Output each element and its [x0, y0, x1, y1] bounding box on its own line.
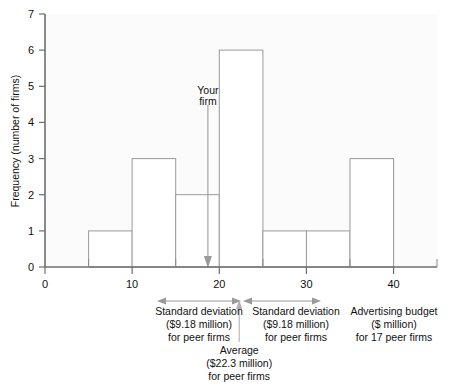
y-axis: 0 1 2 3 4 5 6 7 Frequency (number of fir… — [9, 8, 45, 273]
y-tick-label-2: 2 — [28, 189, 34, 201]
x-caption-line1: Advertising budget — [351, 305, 438, 317]
table-row — [263, 231, 307, 267]
y-tick-label-0: 0 — [28, 261, 34, 273]
table-row — [89, 231, 133, 267]
histogram-svg: 0 1 2 3 4 5 6 7 Frequency (number of fir… — [0, 0, 453, 386]
std-dev-right-line3: for peer firms — [265, 331, 327, 343]
annotation-average: Average ($22.3 million) for peer firms — [206, 344, 272, 382]
table-row — [176, 195, 220, 267]
arrow-left-icon — [157, 298, 166, 305]
std-dev-right-line1: Standard deviation — [252, 305, 340, 317]
table-row — [132, 159, 176, 267]
y-axis-title: Frequency (number of firms) — [9, 75, 21, 207]
x-tick-label-40: 40 — [387, 278, 399, 290]
x-tick-label-0: 0 — [42, 278, 48, 290]
y-tick-label-7: 7 — [28, 8, 34, 20]
x-tick-label-20: 20 — [213, 278, 225, 290]
y-tick-label-1: 1 — [28, 225, 34, 237]
arrow-right-icon — [312, 298, 321, 305]
average-line3: for peer firms — [208, 370, 270, 382]
y-tick-label-5: 5 — [28, 80, 34, 92]
std-dev-left-line3: for peer firms — [168, 331, 230, 343]
arrow-left-icon — [243, 298, 252, 305]
average-line2: ($22.3 million) — [206, 357, 272, 369]
y-tick-label-4: 4 — [28, 116, 34, 128]
std-dev-span-right — [243, 298, 321, 305]
std-dev-left-line1: Standard deviation — [155, 305, 243, 317]
x-caption-line2: ($ million) — [371, 318, 417, 330]
x-tick-label-30: 30 — [300, 278, 312, 290]
annotation-std-dev-left: Standard deviation ($9.18 million) for p… — [155, 305, 243, 343]
std-dev-span-left — [157, 298, 241, 305]
table-row — [219, 50, 263, 267]
std-dev-right-line2: ($9.18 million) — [263, 318, 329, 330]
table-row — [306, 231, 350, 267]
y-tick-label-6: 6 — [28, 44, 34, 56]
x-caption-line3: for 17 peer firms — [356, 331, 432, 343]
your-firm-label-line2: firm — [199, 95, 217, 107]
histogram-figure: 0 1 2 3 4 5 6 7 Frequency (number of fir… — [0, 0, 453, 386]
annotation-x-axis-caption: Advertising budget ($ million) for 17 pe… — [351, 305, 438, 343]
y-tick-label-3: 3 — [28, 153, 34, 165]
annotation-std-dev-right: Standard deviation ($9.18 million) for p… — [252, 305, 340, 343]
x-tick-label-10: 10 — [126, 278, 138, 290]
average-line1: Average — [220, 344, 259, 356]
table-row — [350, 159, 394, 267]
std-dev-left-line2: ($9.18 million) — [166, 318, 232, 330]
